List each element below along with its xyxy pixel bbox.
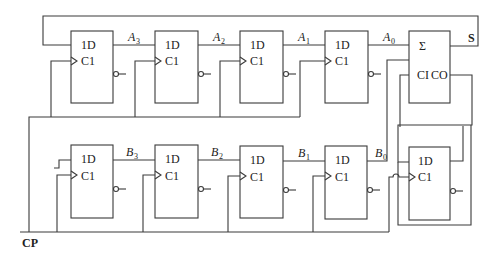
svg-text:B: B [126,145,134,159]
signal-label-a0: A 0 [382,30,395,46]
sigma-icon: Σ [419,39,426,53]
inverted-output-bubble-icon [199,72,204,77]
svg-text:C1: C1 [335,54,349,68]
full-adder: Σ CI CO [409,31,450,103]
svg-text:A: A [297,30,306,44]
svg-text:C1: C1 [81,54,95,68]
svg-text:1D: 1D [335,38,350,52]
svg-text:B: B [298,146,306,160]
svg-text:C1: C1 [335,170,349,184]
signal-label-b3: B 3 [126,145,138,161]
svg-text:2: 2 [221,37,225,46]
svg-text:CO: CO [431,68,448,82]
svg-text:A: A [382,30,391,44]
svg-text:1: 1 [306,153,310,162]
carry-in-wire [450,126,463,161]
svg-text:C1: C1 [250,170,264,184]
svg-text:3: 3 [134,152,138,161]
inverted-output-bubble-icon [114,187,119,192]
svg-text:C1: C1 [165,54,179,68]
svg-text:3: 3 [136,37,140,46]
ff-a0: 1D C1 [325,31,381,103]
signal-label-a3: A 3 [127,30,140,46]
signal-label-b2: B 2 [211,145,223,161]
svg-text:C1: C1 [165,169,179,183]
ff-a1: 1D C1 [240,31,296,103]
svg-text:0: 0 [391,37,395,46]
sum-output-label: S [468,31,475,45]
inverted-output-bubble-icon [284,72,289,77]
carry-ff: 1D C1 [409,147,463,220]
signal-label-a1: A 1 [297,30,310,46]
svg-text:1D: 1D [81,38,96,52]
signal-label-b0: B 0 [375,146,387,162]
signal-label-b1: B 1 [298,146,310,162]
svg-text:1D: 1D [250,38,265,52]
svg-text:1D: 1D [335,153,350,167]
svg-text:B: B [211,145,219,159]
inverted-output-bubble-icon [368,188,373,193]
serial-adder-circuit: 1D C1 1D C1 1D C1 1D C1 A 3 [0,0,497,261]
ff-a2: 1D C1 [155,31,211,103]
signal-label-a2: A 2 [212,30,225,46]
inverted-output-bubble-icon [199,187,204,192]
inverted-output-bubble-icon [284,188,289,193]
svg-text:1: 1 [306,37,310,46]
svg-text:C1: C1 [250,54,264,68]
svg-text:B: B [375,146,383,160]
inverted-output-bubble-icon [451,189,456,194]
svg-text:2: 2 [219,152,223,161]
carry-feedback-wire [400,75,409,124]
svg-text:C1: C1 [418,170,432,184]
svg-text:1D: 1D [165,152,180,166]
ff-b2: 1D C1 [155,145,211,218]
svg-text:A: A [127,30,136,44]
svg-text:C1: C1 [81,169,95,183]
ff-b0: 1D C1 [325,146,380,219]
ff-b3: 1D C1 [71,145,126,218]
svg-text:1D: 1D [81,152,96,166]
clock-label: CP [22,236,38,250]
svg-text:CI: CI [417,68,429,82]
svg-text:1D: 1D [418,154,433,168]
svg-text:1D: 1D [165,38,180,52]
ff-a3: 1D C1 [71,31,126,103]
inverted-output-bubble-icon [114,72,119,77]
svg-text:A: A [212,30,221,44]
svg-text:0: 0 [383,153,387,162]
ff-b1: 1D C1 [240,146,296,218]
inverted-output-bubble-icon [369,72,374,77]
svg-text:1D: 1D [250,153,265,167]
